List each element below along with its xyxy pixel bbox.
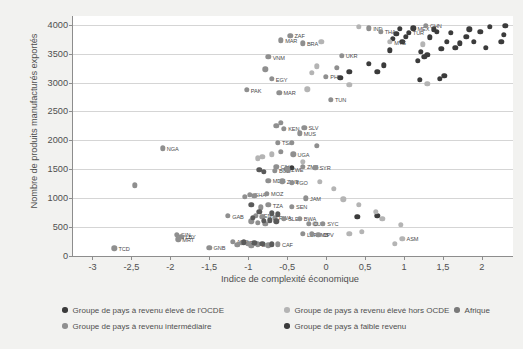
- data-point[interactable]: [425, 81, 430, 86]
- data-point[interactable]: [420, 42, 425, 47]
- data-point[interactable]: [457, 40, 462, 45]
- data-point[interactable]: [439, 46, 444, 51]
- data-point[interactable]: [387, 39, 392, 44]
- data-point[interactable]: [359, 229, 364, 234]
- data-point[interactable]: [483, 45, 488, 50]
- data-point[interactable]: [314, 64, 319, 69]
- data-point[interactable]: [378, 29, 383, 34]
- data-point[interactable]: [278, 149, 283, 154]
- data-point[interactable]: [417, 77, 422, 82]
- data-point[interactable]: [269, 76, 274, 81]
- data-point[interactable]: [207, 245, 212, 250]
- data-point[interactable]: [392, 241, 397, 246]
- data-point[interactable]: [356, 24, 361, 29]
- data-point[interactable]: [272, 168, 277, 173]
- data-point[interactable]: [328, 97, 333, 102]
- data-point[interactable]: [334, 65, 339, 70]
- data-point[interactable]: [319, 39, 324, 44]
- data-point[interactable]: [471, 39, 476, 44]
- data-point[interactable]: [266, 178, 271, 183]
- data-point[interactable]: [297, 131, 302, 136]
- data-point[interactable]: [266, 202, 271, 207]
- data-point[interactable]: [400, 236, 405, 241]
- data-point[interactable]: [269, 152, 274, 157]
- data-point[interactable]: [260, 154, 265, 159]
- data-point[interactable]: [444, 39, 449, 44]
- data-point[interactable]: [244, 87, 249, 92]
- data-point[interactable]: [275, 140, 280, 145]
- data-point[interactable]: [264, 191, 269, 196]
- legend-item[interactable]: Afrique: [454, 306, 490, 315]
- data-point[interactable]: [291, 152, 296, 157]
- data-point[interactable]: [317, 179, 322, 184]
- data-point[interactable]: [267, 217, 272, 222]
- data-point[interactable]: [281, 126, 286, 131]
- data-point[interactable]: [255, 220, 260, 225]
- data-point[interactable]: [467, 27, 472, 32]
- data-point[interactable]: [255, 156, 260, 161]
- data-point[interactable]: [366, 61, 371, 66]
- data-point[interactable]: [381, 62, 386, 67]
- data-point[interactable]: [427, 35, 432, 40]
- data-point[interactable]: [314, 143, 319, 148]
- data-point[interactable]: [274, 123, 279, 128]
- data-point[interactable]: [250, 215, 255, 220]
- legend-item[interactable]: Groupe de pays à revenu élevé hors OCDE: [284, 306, 449, 315]
- data-point[interactable]: [442, 73, 447, 78]
- data-point[interactable]: [297, 216, 302, 221]
- data-point[interactable]: [160, 146, 165, 151]
- data-point[interactable]: [355, 214, 360, 219]
- data-point[interactable]: [266, 54, 271, 59]
- legend-item[interactable]: Groupe de pays à faible revenu: [284, 322, 406, 331]
- data-point[interactable]: [302, 125, 307, 130]
- data-point[interactable]: [448, 30, 453, 35]
- data-point[interactable]: [464, 34, 469, 39]
- data-point[interactable]: [249, 202, 254, 207]
- data-point[interactable]: [339, 53, 344, 58]
- data-point[interactable]: [289, 204, 294, 209]
- data-point[interactable]: [225, 213, 230, 218]
- data-point[interactable]: [303, 195, 308, 200]
- data-point[interactable]: [422, 54, 427, 59]
- data-point[interactable]: [274, 219, 279, 224]
- data-point[interactable]: [269, 242, 274, 247]
- x-tick-mark: [287, 256, 288, 260]
- data-point[interactable]: [375, 69, 380, 74]
- data-point[interactable]: [261, 169, 266, 174]
- data-point[interactable]: [487, 24, 492, 29]
- data-point[interactable]: [347, 82, 352, 87]
- data-point[interactable]: [331, 186, 336, 191]
- data-point[interactable]: [300, 231, 305, 236]
- data-point[interactable]: [356, 202, 361, 207]
- data-point[interactable]: [341, 197, 346, 202]
- data-point[interactable]: [379, 216, 384, 221]
- data-point[interactable]: [453, 45, 458, 50]
- data-point[interactable]: [277, 90, 282, 95]
- data-point[interactable]: [309, 70, 314, 75]
- legend-item[interactable]: Groupe de pays à revenu élevé de l'OCDE: [62, 306, 224, 315]
- data-point[interactable]: [501, 32, 506, 37]
- data-point[interactable]: [278, 120, 283, 125]
- data-point[interactable]: [300, 40, 305, 45]
- data-point[interactable]: [387, 47, 392, 52]
- data-point[interactable]: [289, 140, 294, 145]
- data-point[interactable]: [347, 69, 352, 74]
- legend-item[interactable]: Groupe de pays à revenu intermédiaire: [62, 322, 211, 331]
- data-point[interactable]: [305, 87, 310, 92]
- data-point[interactable]: [263, 67, 268, 72]
- data-point[interactable]: [323, 74, 328, 79]
- data-point[interactable]: [415, 58, 420, 63]
- data-point[interactable]: [347, 231, 352, 236]
- data-point[interactable]: [132, 183, 137, 188]
- data-point[interactable]: [503, 23, 508, 28]
- data-point[interactable]: [499, 39, 504, 44]
- data-point[interactable]: [235, 242, 240, 247]
- data-point[interactable]: [112, 246, 117, 251]
- data-point[interactable]: [306, 221, 311, 226]
- data-point[interactable]: [366, 25, 371, 30]
- data-point[interactable]: [478, 29, 483, 34]
- data-point[interactable]: [275, 241, 280, 246]
- data-point[interactable]: [278, 38, 283, 43]
- data-point[interactable]: [397, 26, 402, 31]
- data-point[interactable]: [175, 237, 180, 242]
